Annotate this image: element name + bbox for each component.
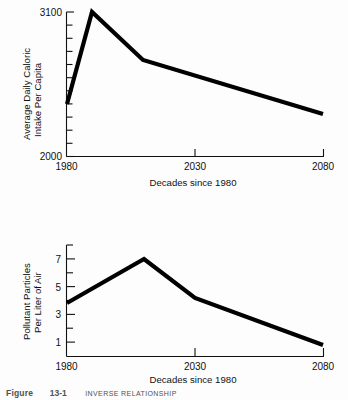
y-axis-label-line1: Pollutant Particles [21,263,32,340]
y-axis-label-line2: Per Liter of Air [32,271,43,333]
x-tick-label-1980: 1980 [55,161,78,172]
figure-caption: Figure 13-1 INVERSE RELATIONSHIP [6,388,346,400]
x-axis-title: Decades since 1980 [150,177,237,188]
chart-caloric-intake: Average Daily Caloric Intake Per Capita … [0,0,348,190]
x-tick-label-2030: 2030 [184,361,207,372]
x-tick-label-1980: 1980 [55,361,78,372]
x-tick-label-2080: 2080 [312,161,335,172]
chart-caloric-intake-svg: Average Daily Caloric Intake Per Capita … [0,0,348,190]
y-axis-label-line2: Intake Per Capita [32,62,43,137]
y-tick-label-3: 3 [55,309,61,320]
figure-caption-number: 13-1 [50,388,67,398]
figure-caption-label: Figure [6,388,33,398]
figure-page: Average Daily Caloric Intake Per Capita … [0,0,348,400]
data-series-caloric-intake [67,12,323,114]
chart-pollutant-particles-svg: Pollutant Particles Per Liter of Air 7 5… [0,200,348,385]
chart-pollutant-particles: Pollutant Particles Per Liter of Air 7 5… [0,200,348,385]
x-axis-title: Decades since 1980 [150,374,237,385]
y-tick-label-5: 5 [55,282,61,293]
figure-caption-source: INVERSE RELATIONSHIP [85,390,177,397]
y-tick-label-7: 7 [55,254,61,265]
y-tick-label-1: 1 [55,337,61,348]
x-tick-label-2030: 2030 [184,161,207,172]
y-axis-label-line1: Average Daily Caloric [21,48,32,140]
x-tick-label-2080: 2080 [312,361,335,372]
data-series-pollutant-particles [67,259,323,345]
y-tick-label-3100: 3100 [40,7,63,18]
